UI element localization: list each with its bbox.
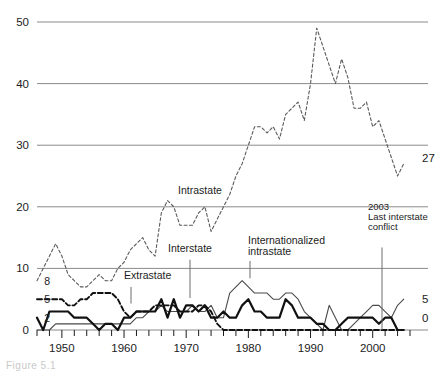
series-line-intrastate	[37, 28, 404, 287]
ytick-label-0: 0	[23, 324, 29, 336]
interstate-label: Interstate	[168, 242, 212, 254]
series-line-interstate	[37, 299, 404, 330]
event-2003: 2003Last interstateconflict	[368, 201, 428, 232]
series-group	[37, 28, 404, 330]
xtick-label-1960: 1960	[111, 342, 137, 354]
xtick-label-1950: 1950	[49, 342, 75, 354]
ytick-label-40: 40	[16, 78, 29, 90]
intrastate-label: Intrastate	[178, 184, 222, 196]
ytick-label-20: 20	[16, 201, 29, 213]
extrastate-label: Extrastate	[124, 269, 171, 281]
figure-caption: Figure 5.1	[6, 360, 56, 371]
gridlines-group	[37, 22, 428, 330]
ytick-minor-label-2: 2	[44, 312, 50, 324]
ytick-label-30: 30	[16, 139, 29, 151]
conflict-trends-line-chart: 0102030405085219501960197019801990200027…	[0, 0, 445, 371]
ytick-label-10: 10	[16, 262, 29, 274]
end-label-intrastate: 27	[422, 152, 435, 164]
figure-container: 0102030405085219501960197019801990200027…	[0, 0, 445, 371]
end-label-interstate: 0	[422, 312, 428, 324]
end-label-internationalized-intrastate: 5	[422, 293, 428, 305]
ytick-minor-label-8: 8	[44, 275, 50, 287]
xtick-label-2000: 2000	[360, 342, 386, 354]
internationalized-intrastate-label: Internationalizedintrastate	[248, 234, 325, 258]
xtick-label-1980: 1980	[236, 342, 262, 354]
xtick-label-1990: 1990	[298, 342, 324, 354]
xaxis-ticks-group	[37, 330, 410, 338]
text-labels-group: 0102030405085219501960197019801990200027…	[16, 16, 435, 354]
xtick-label-1970: 1970	[173, 342, 199, 354]
ytick-minor-label-5: 5	[44, 293, 50, 305]
ytick-label-50: 50	[16, 16, 29, 28]
